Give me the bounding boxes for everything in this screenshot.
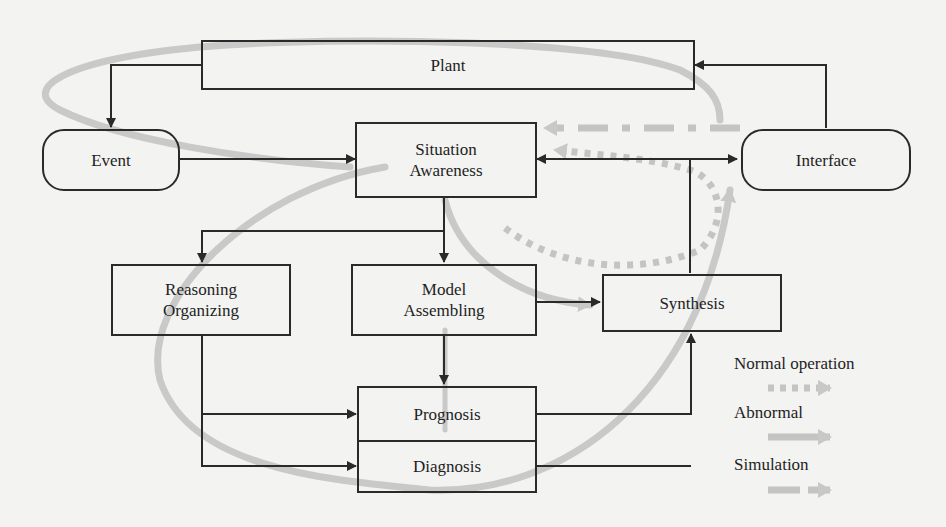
situation-awareness-node: Situation Awareness (355, 122, 537, 198)
interface-node: Interface (741, 129, 911, 191)
plant-node: Plant (201, 40, 695, 90)
interface-label: Interface (796, 150, 856, 171)
model-assembling-node: Model Assembling (351, 264, 537, 336)
diagnosis-label: Diagnosis (413, 456, 481, 477)
reasoning-organizing-line2: Organizing (163, 300, 239, 321)
prognosis-label: Prognosis (413, 404, 480, 425)
legend-normal-operation: Normal operation (734, 354, 854, 374)
prognosis-node: Prognosis (357, 386, 537, 442)
legend-simulation: Simulation (734, 455, 809, 475)
plant-label: Plant (431, 55, 466, 76)
model-assembling-line2: Assembling (403, 300, 484, 321)
event-node: Event (42, 129, 180, 191)
synthesis-label: Synthesis (659, 293, 724, 314)
reasoning-organizing-line1: Reasoning (165, 279, 237, 300)
event-label: Event (91, 150, 131, 171)
legend-abnormal: Abnormal (734, 403, 803, 423)
situation-awareness-line1: Situation (415, 139, 476, 160)
process-diagram: Plant Event Situation Awareness Interfac… (0, 0, 946, 527)
synthesis-node: Synthesis (602, 274, 782, 332)
reasoning-organizing-node: Reasoning Organizing (111, 264, 291, 336)
situation-awareness-line2: Awareness (409, 160, 482, 181)
diagnosis-node: Diagnosis (357, 440, 537, 493)
model-assembling-line1: Model (422, 279, 466, 300)
